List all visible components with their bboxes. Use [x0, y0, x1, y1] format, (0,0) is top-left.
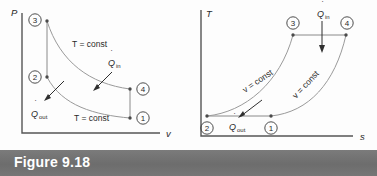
pv-state-label-1: 1 — [137, 112, 149, 124]
pv-x-axis-label: v — [166, 128, 172, 139]
pv-curve-label-upper: T = const — [72, 39, 108, 49]
ts-qout-subscript: out — [237, 127, 246, 133]
pv-state-text-4: 4 — [141, 85, 146, 94]
pv-state-label-3: 3 — [29, 14, 41, 26]
ts-state-label-4: 4 — [341, 17, 353, 29]
ts-state-text-4: 4 — [345, 19, 350, 28]
ts-state-text-3: 3 — [291, 19, 296, 28]
ts-state-label-3: 3 — [287, 17, 299, 29]
ts-qin-symbol: Q — [317, 9, 324, 19]
ts-diagram: T s 3 4 2 1 v = — [183, 0, 377, 150]
pv-isotherm-upper — [47, 21, 130, 89]
pv-y-axis-label: P — [11, 7, 18, 18]
pv-state-dot-1 — [128, 116, 131, 119]
pv-state-label-4: 4 — [137, 83, 149, 95]
ts-state-dot-1 — [269, 114, 272, 117]
ts-state-dot-3 — [291, 33, 294, 36]
ts-qin-annotation: ˙ Q in — [317, 0, 330, 53]
pv-diagram: P v 3 2 4 1 T = — [0, 0, 183, 150]
ts-state-label-2: 2 — [201, 122, 213, 134]
pv-state-label-2: 2 — [29, 71, 41, 83]
pv-state-dot-4 — [128, 87, 131, 90]
ts-curve-label-right: v = const — [290, 68, 321, 100]
pv-state-text-2: 2 — [33, 73, 38, 82]
ts-axes — [201, 10, 353, 136]
pv-state-text-3: 3 — [33, 16, 38, 25]
ts-qin-arrow-icon — [319, 45, 325, 53]
pv-qin-subscript: in — [116, 63, 121, 69]
figure-caption-text: Figure 9.18 — [14, 154, 90, 170]
ts-qout-arrow-icon — [238, 111, 245, 118]
figure-container: P v 3 2 4 1 T = — [0, 0, 377, 176]
ts-state-dot-4 — [344, 33, 347, 36]
pv-qin-symbol: Q — [108, 58, 115, 68]
ts-y-axis-label: T — [206, 8, 213, 19]
pv-qout-symbol: Q — [31, 109, 38, 119]
pv-state-dot-2 — [45, 75, 48, 78]
ts-state-text-2: 2 — [205, 124, 210, 133]
ts-curve-left — [207, 35, 293, 116]
ts-qin-subscript: in — [325, 14, 330, 20]
ts-qout-symbol: Q — [229, 122, 236, 132]
pv-isotherm-lower — [47, 77, 130, 118]
ts-qout-dot-icon: ˙ — [234, 112, 237, 122]
pv-qout-dot-icon: ˙ — [35, 99, 38, 109]
pv-curve-label-lower: T = const — [74, 113, 110, 123]
figure-caption-bar: Figure 9.18 — [0, 150, 377, 176]
pv-qout-subscript: out — [39, 114, 48, 120]
ts-state-dot-2 — [205, 114, 208, 117]
ts-state-text-1: 1 — [269, 124, 274, 133]
ts-state-label-1: 1 — [265, 122, 277, 134]
pv-state-text-1: 1 — [141, 114, 146, 123]
pv-qout-annotation: ˙ Q out — [31, 81, 64, 120]
pv-state-dot-3 — [45, 19, 48, 22]
pv-qin-annotation: ˙ Q in — [93, 49, 121, 91]
ts-x-axis-label: s — [360, 131, 365, 142]
